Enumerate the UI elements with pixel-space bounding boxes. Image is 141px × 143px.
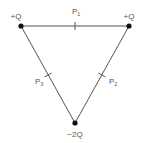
charge-triangle-diagram: +Q +Q −2Q P1 P2 P3 [0,0,141,143]
charge-label-top-left: +Q [11,12,22,21]
point-label-p2: P2 [109,77,117,87]
charge-dot-bottom [72,120,77,125]
charge-dot-top-right [126,23,131,28]
point-label-p3: P3 [35,77,43,87]
point-label-p1: P1 [72,7,80,17]
charge-label-bottom: −2Q [67,130,82,139]
charge-label-top-right: +Q [124,12,135,21]
charge-dot-top-left [18,23,23,28]
